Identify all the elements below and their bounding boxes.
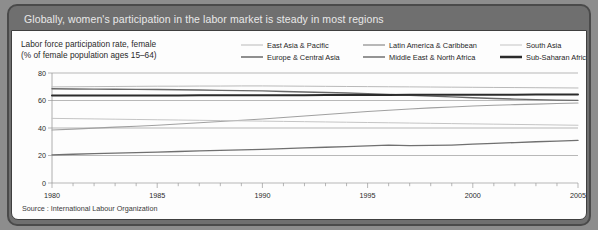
chart-card: Labor force participation rate, female (… bbox=[11, 30, 587, 220]
x-axis-tick-label: 2005 bbox=[570, 191, 586, 200]
screenshot-root: Globally, women's participation in the l… bbox=[0, 0, 598, 230]
legend-swatch-line-icon bbox=[241, 41, 263, 49]
legend-swatch-line-icon bbox=[363, 53, 385, 61]
x-axis-tick-label: 1980 bbox=[44, 191, 60, 200]
legend-item-east-asia-pacific[interactable]: East Asia & Pacific bbox=[241, 41, 363, 50]
legend-label: Europe & Central Asia bbox=[267, 53, 340, 62]
y-axis-tick-label: 0 bbox=[42, 179, 46, 188]
legend-swatch-line-icon bbox=[363, 41, 385, 49]
legend-label: Latin America & Caribbean bbox=[389, 41, 477, 50]
y-axis-tick-label: 80 bbox=[38, 69, 46, 78]
y-axis-caption: Labor force participation rate, female (… bbox=[21, 39, 157, 61]
y-axis-tick-label: 20 bbox=[38, 151, 46, 160]
x-axis-tick-label: 1990 bbox=[254, 191, 270, 200]
y-axis-caption-line2: (% of female population ages 15–64) bbox=[21, 50, 157, 61]
legend-item-europe-central-asia[interactable]: Europe & Central Asia bbox=[241, 53, 363, 62]
x-axis-tick-label: 2000 bbox=[465, 191, 481, 200]
series-line-sub-saharan-africa bbox=[52, 95, 578, 96]
legend-item-sub-saharan-africa[interactable]: Sub-Saharan Africa bbox=[500, 53, 581, 62]
legend-swatch-line-icon bbox=[500, 53, 522, 61]
legend-item-middle-east-north-africa[interactable]: Middle East & North Africa bbox=[363, 53, 500, 62]
legend-label: Middle East & North Africa bbox=[389, 53, 475, 62]
y-axis-tick-label: 60 bbox=[38, 96, 46, 105]
legend-label: East Asia & Pacific bbox=[267, 41, 329, 50]
chart-source-note: Source : International Labour Organizati… bbox=[22, 204, 157, 213]
page-title: Globally, women's participation in the l… bbox=[24, 13, 384, 25]
series-line-east-asia-pacific bbox=[52, 86, 578, 88]
x-axis-tick-label: 1985 bbox=[149, 191, 165, 200]
x-axis-tick-label: 1995 bbox=[360, 191, 376, 200]
legend-label: Sub-Saharan Africa bbox=[526, 53, 587, 62]
line-chart-plot: 020406080198019851990199520002005 bbox=[12, 67, 587, 220]
legend-swatch-line-icon bbox=[500, 41, 522, 49]
y-axis-caption-line1: Labor force participation rate, female bbox=[21, 39, 157, 50]
chart-legend: East Asia & Pacific Latin America & Cari… bbox=[241, 39, 581, 63]
chart-title-bar: Globally, women's participation in the l… bbox=[11, 8, 587, 30]
legend-item-latin-america-caribbean[interactable]: Latin America & Caribbean bbox=[363, 41, 500, 50]
series-line-middle-east-north-africa bbox=[52, 140, 578, 154]
legend-label: South Asia bbox=[526, 41, 561, 50]
legend-item-south-asia[interactable]: South Asia bbox=[500, 41, 581, 50]
series-line-latin-america-caribbean bbox=[52, 103, 578, 130]
legend-swatch-line-icon bbox=[241, 53, 263, 61]
series-line-south-asia bbox=[52, 118, 578, 125]
y-axis-tick-label: 40 bbox=[38, 124, 46, 133]
